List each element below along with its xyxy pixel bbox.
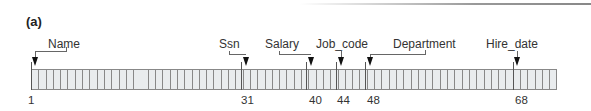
name-bracket [35,51,66,52]
position-31: 31 [241,94,254,106]
name-arrow-icon [32,57,38,66]
hire-date-arrow-icon [514,57,520,66]
department-bracket-end [425,50,426,55]
job-code-boundary-tick [336,62,337,90]
position-1: 1 [28,94,34,106]
position-40: 40 [309,94,322,106]
ssn-bracket [229,54,246,55]
figure-label: (a) [26,14,42,29]
salary-arrow-icon [308,57,314,66]
field-label-job-code: Job_code [316,37,368,51]
hire-date-boundary-tick [513,62,514,90]
name-boundary-tick [31,62,32,90]
salary-bracket [279,54,311,55]
department-arrow-icon [367,57,373,66]
position-68: 68 [515,94,528,106]
department-bracket [370,54,425,55]
ssn-boundary-tick [241,62,242,90]
top-border-line [300,3,591,5]
field-label-hire-date: Hire_date [486,37,538,51]
field-label-name: Name [48,37,80,51]
ssn-arrow-icon [243,57,249,66]
field-label-salary: Salary [265,37,299,51]
name-bracket-end [66,47,67,52]
job-code-arrow-icon [338,57,344,66]
record-tape [31,69,557,90]
position-48: 48 [367,94,380,106]
field-label-ssn: Ssn [219,37,240,51]
salary-boundary-tick [306,62,307,90]
position-44: 44 [337,94,350,106]
department-boundary-tick [365,62,366,90]
field-label-department: Department [393,37,456,51]
